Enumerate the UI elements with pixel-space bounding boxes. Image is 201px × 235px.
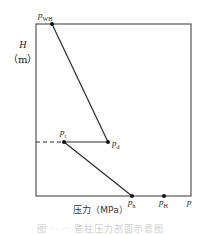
- y-axis-symbol: H: [8, 37, 37, 52]
- point-wellhead: [50, 22, 54, 26]
- y-axis-unit: （m）: [8, 52, 37, 67]
- label-sub: WH: [43, 16, 53, 22]
- label-sub: d: [117, 144, 120, 150]
- label-delivery: pd: [112, 139, 120, 150]
- label-wellhead: pWH: [38, 11, 53, 22]
- gradient-line-lower: [64, 142, 132, 196]
- label-sub: t: [65, 133, 67, 139]
- point-delivery: [106, 140, 110, 144]
- plot-frame: [36, 24, 191, 196]
- pressure-profile-diagram: [0, 0, 201, 235]
- label-turning: pt: [60, 128, 66, 139]
- y-axis-label: H （m）: [8, 37, 37, 67]
- x-axis-label: 压力（MPa）: [0, 203, 201, 216]
- point-turning: [62, 140, 66, 144]
- figure-caption: 图 ·· ·· 管柱压力剖面示意图: [0, 222, 201, 235]
- gradient-line-upper: [52, 24, 108, 142]
